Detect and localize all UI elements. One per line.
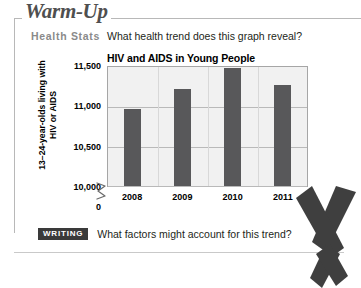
awareness-ribbon-icon	[296, 186, 361, 288]
health-stats-prompt: Health Stats What health trend does this…	[31, 30, 302, 42]
bar-2011	[274, 85, 291, 186]
page-title: Warm-Up	[22, 0, 111, 24]
chart-y-ticks: 11,500 11,000 10,500 10,000 0	[56, 66, 101, 206]
y-tick-label: 0	[96, 202, 101, 212]
bar-2009	[174, 89, 191, 186]
y-tick-label: 11,500	[74, 61, 101, 71]
bottom-divider	[14, 252, 344, 253]
prompt-question: What health trend does this graph reveal…	[107, 30, 302, 42]
warmup-header: Warm-Up	[0, 0, 361, 26]
hiv-aids-bar-chart: HIV and AIDS in Young People 13–24-year-…	[26, 52, 316, 222]
bar-2008	[124, 109, 141, 186]
y-tick-label: 11,000	[74, 101, 101, 111]
prompt-kicker: Health Stats	[31, 30, 100, 42]
chart-gridline	[108, 186, 307, 187]
chart-x-labels: 2008 2009 2010 2011	[107, 192, 308, 202]
x-tick-label: 2008	[112, 192, 152, 202]
chart-plot-area	[107, 66, 308, 187]
x-tick-label: 2010	[213, 192, 253, 202]
writing-question: What factors might account for this tren…	[97, 228, 291, 240]
x-tick-label: 2009	[162, 192, 202, 202]
writing-badge: WRITING	[38, 228, 88, 240]
writing-prompt: WRITING What factors might account for t…	[38, 228, 292, 240]
bar-2010	[224, 68, 241, 186]
left-divider	[14, 18, 15, 233]
y-tick-label: 10,500	[73, 142, 101, 152]
chart-bars	[108, 67, 307, 186]
